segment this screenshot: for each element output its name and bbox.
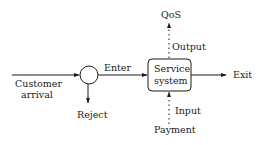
reject-label: Reject — [77, 109, 108, 120]
customer-arrival-label-1: Customer — [15, 78, 62, 89]
service-system-diagram: Customer arrival Enter Reject Service sy… — [0, 0, 264, 145]
payment-label: Payment — [154, 124, 196, 135]
input-label: Input — [175, 105, 201, 116]
enter-label: Enter — [104, 62, 131, 73]
customer-arrival-label-2: arrival — [21, 89, 53, 100]
output-label: Output — [172, 41, 206, 52]
qos-label: QoS — [161, 9, 181, 20]
service-label-line1: Service — [154, 63, 190, 74]
service-label-line2: system — [154, 75, 188, 86]
exit-label: Exit — [233, 69, 252, 80]
decision-node — [80, 66, 98, 84]
